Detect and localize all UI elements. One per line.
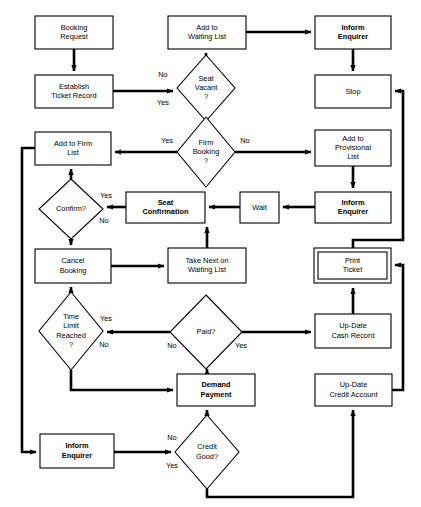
node-add-provisional-list[interactable]: Add toProvisionalList <box>315 130 391 166</box>
node-wait[interactable]: Wait <box>240 192 279 223</box>
node-establish-ticket[interactable]: EstablishTicket Record <box>35 75 113 108</box>
flowchart-svg: BookingRequestEstablishTicket RecordAdd … <box>0 0 421 507</box>
node-seat-confirmation[interactable]: SeatConfirmation <box>126 192 205 223</box>
node-label: InformEnquirer <box>338 23 369 41</box>
edge-timelimit-no-to-demand <box>71 370 173 390</box>
edge-credit-to-print <box>392 265 403 390</box>
node-label: InformEnquirer <box>338 198 369 216</box>
node-label: Wait <box>252 202 267 211</box>
node-seat-vacant[interactable]: SeatVacant? <box>177 55 235 121</box>
node-cancel-booking[interactable]: CancelBooking <box>35 249 111 283</box>
edge-label-label-confirm-no: No <box>99 216 108 225</box>
node-label: CreditGood? <box>196 442 218 460</box>
node-confirm[interactable]: Confirm? <box>39 179 103 239</box>
node-inform-enquirer-top[interactable]: InformEnquirer <box>315 16 391 49</box>
node-take-next-waiting[interactable]: Take Next onWaiting List <box>168 248 246 283</box>
node-inform-enquirer-bot[interactable]: InformEnquirer <box>40 434 114 468</box>
node-label: Confirm? <box>56 204 86 213</box>
edge-label-label-firm-no: No <box>240 136 249 145</box>
edge-firmlist-to-inform-bot <box>22 148 36 452</box>
node-label: BookingRequest <box>60 23 88 41</box>
node-label: PrintTicket <box>343 256 362 274</box>
node-update-cash-record[interactable]: Up-DateCash Record <box>315 314 391 348</box>
node-add-waiting-list[interactable]: Add toWaiting List <box>168 16 246 49</box>
node-print-ticket[interactable]: PrintTicket <box>314 248 391 283</box>
edge-label-label-creditgood-no: No <box>167 433 176 442</box>
edge-label-label-creditgood-yes: Yes <box>166 461 178 470</box>
edge-label-label-paid-no: No <box>167 341 176 350</box>
node-label: DemandPayment <box>201 380 232 398</box>
node-demand-payment[interactable]: DemandPayment <box>177 374 255 406</box>
node-label: Stop <box>345 86 360 95</box>
node-label: Take Next onWaiting List <box>185 256 228 274</box>
node-update-credit-account[interactable]: Up-DateCredit Account <box>315 374 392 406</box>
node-time-limit-reached[interactable]: TimeLimitReached? <box>39 292 103 370</box>
node-firm-booking[interactable]: FirmBooking? <box>177 117 235 187</box>
edge-label-label-seatvacant-no: No <box>158 70 167 79</box>
edge-label-label-seatvacant-yes: Yes <box>157 98 169 107</box>
edge-label-label-confirm-yes: Yes <box>100 191 112 200</box>
flowchart-canvas: BookingRequestEstablishTicket RecordAdd … <box>0 0 421 507</box>
node-add-firm-list[interactable]: Add to FirmList <box>35 132 111 165</box>
node-stop[interactable]: Stop <box>315 75 391 108</box>
edge-label-label-timelimit-yes: Yes <box>100 314 112 323</box>
edge-print-to-stop <box>353 91 403 248</box>
edge-label-label-timelimit-no: No <box>99 340 108 349</box>
edge-label-label-firm-yes: Yes <box>161 136 173 145</box>
node-label: InformEnquirer <box>62 441 93 459</box>
node-label: CancelBooking <box>60 256 87 274</box>
node-inform-enquirer-mid[interactable]: InformEnquirer <box>315 192 391 223</box>
node-booking-request[interactable]: BookingRequest <box>35 16 113 49</box>
node-credit-good[interactable]: CreditGood? <box>175 415 239 489</box>
node-paid[interactable]: Paid? <box>170 295 242 369</box>
node-label: Paid? <box>197 327 216 336</box>
nodes-layer: BookingRequestEstablishTicket RecordAdd … <box>35 16 392 489</box>
edge-label-label-paid-yes: Yes <box>235 341 247 350</box>
